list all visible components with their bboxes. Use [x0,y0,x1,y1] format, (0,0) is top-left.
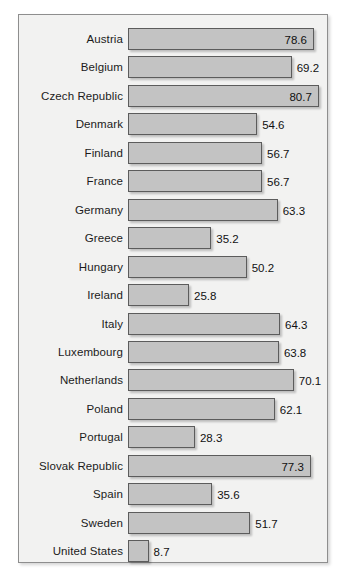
bar-row: Austria78.6 [128,28,327,50]
bar-value-label: 56.7 [261,171,289,193]
category-label: Italy [101,313,128,335]
bar-row: Hungary50.2 [128,256,327,278]
category-label: France [87,170,128,192]
bar: 77.3 [128,455,311,477]
category-label: Germany [75,199,128,221]
bar-row: Luxembourg63.8 [128,341,327,363]
plot-area: Austria78.6Belgium69.2Czech Republic80.7… [19,15,327,562]
bar-value-label: 56.7 [261,143,289,165]
bar-row: Italy64.3 [128,313,327,335]
category-label: Czech Republic [41,85,128,107]
category-label: Poland [87,398,128,420]
category-label: Hungary [79,256,128,278]
bar: 35.6 [128,483,212,505]
bar-row: Netherlands70.1 [128,369,327,391]
bar-value-label: 62.1 [274,399,302,421]
bar-value-label: 64.3 [279,314,307,336]
bar-row: Portugal28.3 [128,426,327,448]
category-label: Ireland [87,284,128,306]
bar: 62.1 [128,398,275,420]
bar: 78.6 [128,28,314,50]
bar-row: Belgium69.2 [128,56,327,78]
bar-value-label: 35.2 [210,228,238,250]
bar: 63.8 [128,341,279,363]
bar-value-label: 28.3 [194,427,222,449]
bar: 64.3 [128,313,280,335]
category-label: Sweden [81,512,128,534]
bar-row: Germany63.3 [128,199,327,221]
bar-row: Denmark54.6 [128,113,327,135]
bar: 51.7 [128,512,250,534]
bar-row: Slovak Republic77.3 [128,455,327,477]
category-label: Austria [87,28,129,50]
bar: 56.7 [128,142,262,164]
category-label: Portugal [79,426,128,448]
bar: 54.6 [128,113,257,135]
category-label: Slovak Republic [39,455,128,477]
bar: 80.7 [128,85,319,107]
bar: 28.3 [128,426,195,448]
category-label: Belgium [81,56,128,78]
bar-value-label: 63.8 [278,342,306,364]
bar: 70.1 [128,369,294,391]
bar-row: Ireland25.8 [128,284,327,306]
category-label: Spain [93,483,128,505]
bar-row: Spain35.6 [128,483,327,505]
category-label: Finland [85,142,128,164]
bar-value-label: 70.1 [293,370,321,392]
bar-value-label: 78.6 [284,29,312,51]
chart-panel: Austria78.6Belgium69.2Czech Republic80.7… [18,14,328,563]
bar: 35.2 [128,227,211,249]
bar: 50.2 [128,256,247,278]
bar-row: Sweden51.7 [128,512,327,534]
bar-value-label: 8.7 [148,541,170,563]
bar-chart-figure: Austria78.6Belgium69.2Czech Republic80.7… [0,0,345,574]
bar-row: United States8.7 [128,540,327,562]
bar-value-label: 63.3 [277,200,305,222]
bar-value-label: 80.7 [289,86,317,108]
bar-row: Greece35.2 [128,227,327,249]
bar: 69.2 [128,56,292,78]
category-label: Luxembourg [58,341,128,363]
bar-value-label: 25.8 [188,285,216,307]
bar-value-label: 77.3 [281,456,309,478]
bar: 63.3 [128,199,278,221]
category-label: Denmark [76,113,128,135]
bar-value-label: 50.2 [246,257,274,279]
bar-value-label: 35.6 [211,484,239,506]
category-label: Greece [85,227,128,249]
bar-row: Finland56.7 [128,142,327,164]
bar-row: Czech Republic80.7 [128,85,327,107]
bar-row: France56.7 [128,170,327,192]
bar-value-label: 51.7 [249,513,277,535]
bar: 56.7 [128,170,262,192]
bar-value-label: 54.6 [256,114,284,136]
bar-row: Poland62.1 [128,398,327,420]
category-label: United States [53,540,128,562]
bar: 8.7 [128,540,149,562]
bar: 25.8 [128,284,189,306]
bar-value-label: 69.2 [291,57,319,79]
category-label: Netherlands [60,369,128,391]
